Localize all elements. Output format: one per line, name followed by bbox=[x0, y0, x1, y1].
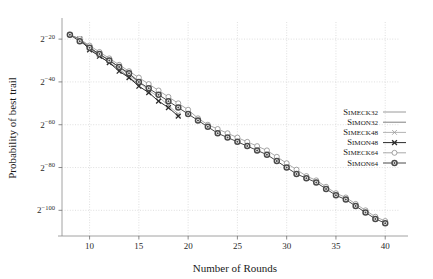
legend-label-simeck64: SIMECK64 bbox=[343, 147, 378, 157]
x-tick-label: 40 bbox=[381, 241, 391, 251]
x-tick-label: 10 bbox=[85, 241, 95, 251]
probability-of-best-trail-chart: 10152025303540 2−202−402−602−802−100 Num… bbox=[0, 0, 433, 279]
x-tick-label: 20 bbox=[184, 241, 194, 251]
legend-label-simon64: SIMON64 bbox=[347, 158, 378, 168]
x-tick-label: 15 bbox=[134, 241, 144, 251]
x-tick-label: 35 bbox=[331, 241, 341, 251]
legend-label-simeck48: SIMECK48 bbox=[343, 127, 378, 137]
x-axis-label: Number of Rounds bbox=[193, 262, 277, 274]
x-tick-label: 25 bbox=[233, 241, 243, 251]
x-tick-label: 30 bbox=[282, 241, 292, 251]
legend-label-simeck32: SIMECK32 bbox=[343, 107, 378, 117]
y-axis-label: Probability of best trail bbox=[6, 77, 18, 179]
legend-label-simon48: SIMON48 bbox=[347, 137, 378, 147]
chart-figure: 10152025303540 2−202−402−602−802−100 Num… bbox=[0, 0, 433, 279]
legend-label-simon32: SIMON32 bbox=[347, 117, 378, 127]
